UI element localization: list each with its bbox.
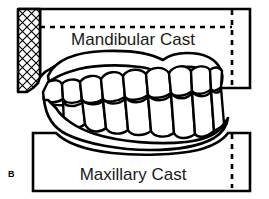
cross-hatched-mounting-block — [16, 7, 44, 95]
mandibular-cast-caption: Mandibular Cast — [71, 30, 195, 49]
figure-canvas: Mandibular Cast — [0, 0, 269, 199]
maxillary-cast-caption: Maxillary Cast — [80, 165, 187, 184]
dental-cast-figure: Mandibular Cast — [0, 0, 269, 199]
panel-label: B — [8, 170, 15, 179]
